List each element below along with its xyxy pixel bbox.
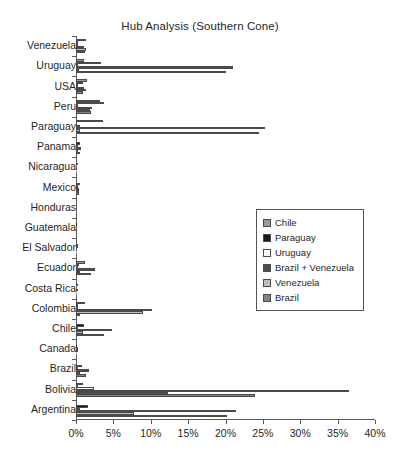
bar (76, 152, 80, 154)
bar-group (76, 362, 375, 376)
legend-label: Brazil + Venezuela (275, 262, 354, 273)
y-axis-label: Chile (52, 323, 76, 334)
y-axis-tick (72, 157, 76, 158)
bar-group (76, 120, 375, 134)
bar-group (76, 322, 375, 336)
bar-group (76, 181, 375, 195)
y-axis-label: Peru (54, 101, 76, 112)
x-axis-label: 35% (318, 427, 358, 439)
legend-swatch-icon (263, 264, 271, 272)
x-axis-tick (263, 420, 264, 424)
bar (76, 165, 77, 167)
x-axis-tick (226, 420, 227, 424)
x-axis-tick (113, 420, 114, 424)
legend-swatch-icon (263, 219, 271, 227)
y-axis-tick (72, 198, 76, 199)
bar-group (76, 140, 375, 154)
x-axis-tick (76, 420, 77, 424)
legend-label: Venezuela (275, 277, 319, 288)
legend-item: Brazil + Venezuela (263, 260, 357, 275)
bar (76, 132, 259, 134)
bar (76, 172, 77, 174)
y-axis-label: Bolivia (45, 384, 76, 395)
bar (76, 334, 104, 336)
legend-swatch-icon (263, 249, 271, 257)
y-axis-tick (72, 117, 76, 118)
y-axis-label: Canada (39, 343, 76, 354)
bar-group (76, 79, 375, 93)
legend-swatch-icon (263, 294, 271, 302)
x-axis-label: 20% (206, 427, 246, 439)
y-axis-tick (72, 36, 76, 37)
y-axis-label: Nicaragua (28, 161, 76, 172)
legend-item: Paraguay (263, 230, 357, 245)
legend-swatch-icon (263, 279, 271, 287)
bar (76, 111, 91, 113)
bar-group (76, 100, 375, 114)
bar (76, 311, 143, 313)
chart-legend: ChileParaguayUruguayBrazil + VenezuelaVe… (256, 209, 364, 311)
x-axis-tick (338, 420, 339, 424)
y-axis-tick (72, 76, 76, 77)
x-axis-tick (300, 420, 301, 424)
y-axis-tick (72, 400, 76, 401)
bar (76, 374, 86, 376)
chart-title: Hub Analysis (Southern Cone) (0, 20, 400, 32)
bar (76, 66, 233, 68)
y-axis-label: Costa Rica (25, 283, 76, 294)
x-axis-label: 40% (355, 427, 395, 439)
y-axis-tick (72, 319, 76, 320)
bar-group (76, 160, 375, 174)
y-axis-label: Panama (37, 141, 76, 152)
bar (76, 71, 226, 73)
bar (76, 415, 227, 417)
bar-group (76, 342, 375, 356)
y-axis-label: Argentina (31, 404, 76, 415)
legend-label: Brazil (275, 292, 299, 303)
y-axis-tick (72, 279, 76, 280)
y-axis-tick (72, 339, 76, 340)
x-axis-label: 25% (243, 427, 283, 439)
bar (76, 102, 104, 104)
y-axis-tick (72, 359, 76, 360)
y-axis-label: Guatemala (25, 222, 76, 233)
bar (76, 293, 77, 295)
y-axis-tick (72, 137, 76, 138)
legend-label: Chile (275, 217, 297, 228)
bar (76, 192, 79, 194)
bar-group (76, 59, 375, 73)
x-axis-label: 0% (56, 427, 96, 439)
y-axis-tick (72, 238, 76, 239)
chart-container: Hub Analysis (Southern Cone) VenezuelaUr… (0, 0, 400, 457)
bar (76, 127, 265, 129)
y-axis-tick (72, 218, 76, 219)
x-axis-tick (375, 420, 376, 424)
bar (76, 314, 80, 316)
y-axis-tick (72, 380, 76, 381)
y-axis-label: USA (54, 81, 76, 92)
x-axis-label: 30% (280, 427, 320, 439)
x-axis-tick (188, 420, 189, 424)
bar (76, 226, 77, 228)
y-axis-tick (72, 299, 76, 300)
x-axis-tick (151, 420, 152, 424)
y-axis-tick (72, 177, 76, 178)
bar (76, 62, 101, 64)
bar (76, 120, 103, 122)
bar (76, 273, 91, 275)
x-axis-label: 10% (131, 427, 171, 439)
y-axis-label: Ecuador (37, 262, 76, 273)
legend-label: Paraguay (275, 232, 316, 243)
legend-item: Chile (263, 215, 357, 230)
legend-item: Brazil (263, 290, 357, 305)
legend-item: Venezuela (263, 275, 357, 290)
y-axis-label: Uruguay (36, 60, 76, 71)
legend-label: Uruguay (275, 247, 311, 258)
bar (76, 246, 78, 248)
y-axis-label: Venezuela (27, 40, 76, 51)
x-axis-label: 15% (168, 427, 208, 439)
y-axis-label: Paraguay (31, 121, 76, 132)
y-axis-label: Honduras (30, 202, 76, 213)
y-axis-tick (72, 56, 76, 57)
y-axis-label: Colombia (32, 303, 76, 314)
